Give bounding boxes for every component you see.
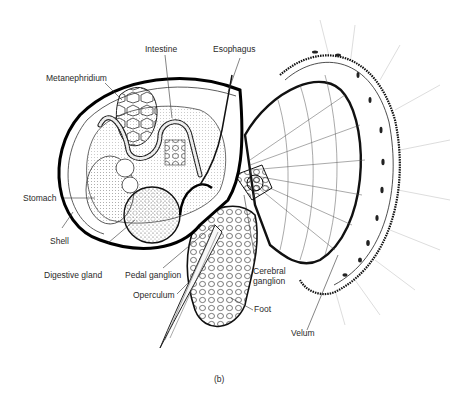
label-velum: Velum xyxy=(291,328,315,338)
label-foot: Foot xyxy=(254,304,271,314)
label-shell: Shell xyxy=(50,236,69,246)
label-stomach: Stomach xyxy=(23,193,57,203)
label-cerebral-ganglion-2: ganglion xyxy=(253,276,285,286)
label-intestine: Intestine xyxy=(145,44,177,54)
label-operculum: Operculum xyxy=(133,290,175,300)
figure-caption: (b) xyxy=(214,374,224,384)
anatomy-illustration xyxy=(0,0,455,397)
veliger-diagram: Intestine Esophagus Metanephridium Stoma… xyxy=(0,0,455,397)
label-esophagus: Esophagus xyxy=(213,44,256,54)
label-cerebral-ganglion-1: Cerebral xyxy=(253,266,286,276)
label-digestive-gland: Digestive gland xyxy=(44,270,102,280)
label-pedal-ganglion: Pedal ganglion xyxy=(125,270,181,280)
digestive-gland-shape xyxy=(124,187,180,243)
label-metanephridium: Metanephridium xyxy=(46,73,107,83)
